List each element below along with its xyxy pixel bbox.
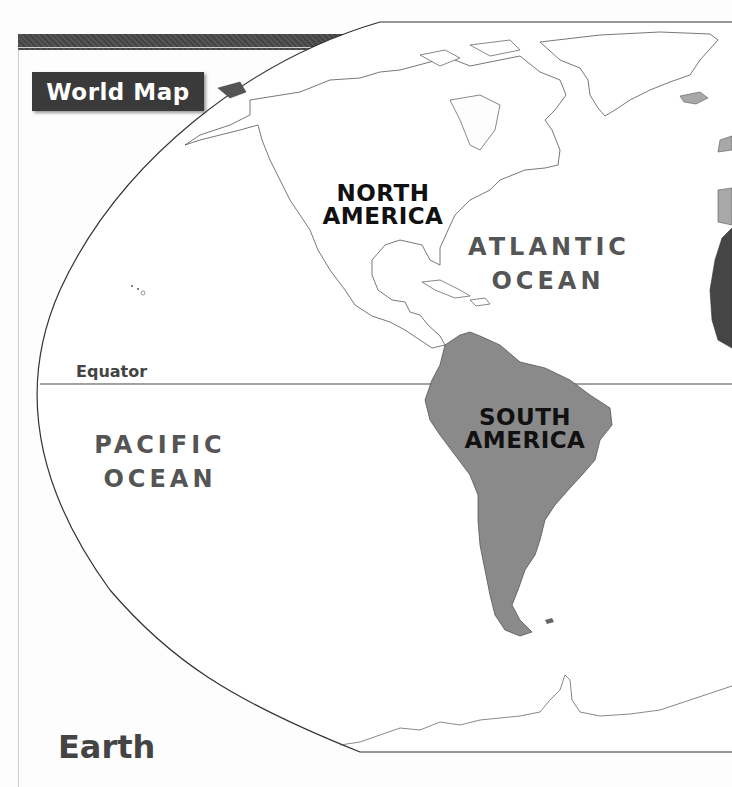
badge-title: World Map (46, 79, 189, 105)
south-america-label: SOUTH AMERICA (460, 406, 590, 452)
hawaii-island (137, 288, 139, 290)
pacific-ocean-label: PACIFIC OCEAN (90, 428, 230, 496)
south-america-label-line1: SOUTH (460, 406, 590, 429)
hawaii-island (131, 285, 133, 287)
north-america-label: NORTH AMERICA (318, 182, 448, 228)
north-america-label-line1: NORTH (318, 182, 448, 205)
atlantic-ocean-label-line1: ATLANTIC (468, 230, 628, 264)
atlantic-ocean-label: ATLANTIC OCEAN (468, 230, 628, 298)
pacific-ocean-label-line2: OCEAN (90, 462, 230, 496)
pacific-ocean-label-line1: PACIFIC (90, 428, 230, 462)
atlantic-ocean-label-line2: OCEAN (468, 264, 628, 298)
world-map (0, 0, 732, 787)
earth-title: Earth (58, 728, 155, 766)
equator-label: Equator (76, 362, 147, 381)
textbook-page: World Map NORTH AMERICA SOUTH AMERICA AT… (0, 0, 732, 787)
iberia-shape (718, 188, 732, 225)
world-map-badge: World Map (32, 72, 204, 111)
south-america-label-line2: AMERICA (460, 429, 590, 452)
north-america-label-line2: AMERICA (318, 205, 448, 228)
